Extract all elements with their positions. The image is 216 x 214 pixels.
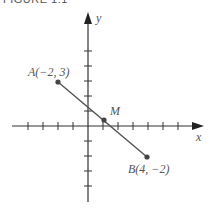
label-point-b: B(4, −2)	[128, 162, 169, 176]
point-m	[101, 117, 106, 122]
y-axis-label: y	[95, 11, 102, 25]
coordinate-plane: A(−2, 3) M B(4, −2) y x	[0, 0, 216, 214]
point-a	[55, 79, 60, 84]
label-point-m: M	[109, 104, 121, 118]
x-axis-arrow-icon	[192, 122, 204, 130]
x-axis-label: x	[195, 130, 202, 144]
point-b	[144, 154, 149, 159]
label-point-a: A(−2, 3)	[27, 65, 69, 79]
y-axis-arrow-icon	[84, 12, 92, 24]
